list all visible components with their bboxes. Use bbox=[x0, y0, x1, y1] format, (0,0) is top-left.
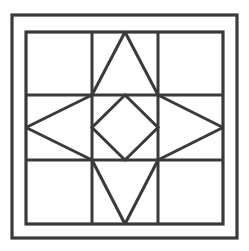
star-pattern-diagram bbox=[0, 0, 249, 251]
background-panel bbox=[0, 0, 249, 251]
pattern-canvas bbox=[0, 0, 249, 251]
